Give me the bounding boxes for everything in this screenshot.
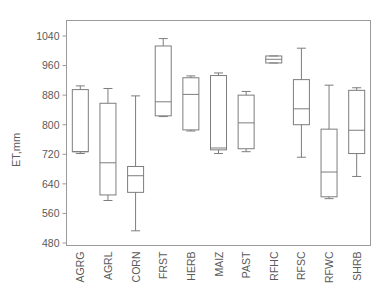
boxplot-chart: 4805606407208008809601040 ET,mm AGRGAGRL… — [0, 0, 385, 298]
box-iqr — [100, 103, 116, 195]
box-iqr — [238, 95, 254, 149]
y-tick-label: 880 — [42, 89, 60, 101]
box-group — [128, 96, 144, 231]
box-series — [72, 39, 364, 231]
box-group — [183, 76, 199, 131]
box-group — [155, 39, 171, 117]
box-iqr — [349, 90, 365, 153]
box-iqr — [293, 80, 309, 125]
box-group — [211, 73, 227, 154]
x-tick-label-agrg: AGRG — [74, 252, 86, 283]
x-tick-label-agrl: AGRL — [102, 251, 114, 280]
box-iqr — [72, 90, 88, 152]
y-tick-label: 560 — [42, 207, 60, 219]
y-axis-title: ET,mm — [10, 133, 22, 167]
x-tick-label-rfhc: RFHC — [268, 251, 280, 281]
box-group — [72, 86, 88, 154]
x-tick-label-corn: CORN — [130, 252, 142, 283]
box-group — [266, 56, 282, 63]
box-iqr — [211, 76, 227, 150]
x-tick-label-rfwc: RFWC — [323, 251, 335, 283]
x-axis-labels: AGRGAGRLCORNFRSTHERBMAIZPASTRFHCRFSCRFWC… — [74, 251, 362, 283]
x-tick-label-frst: FRST — [157, 251, 169, 279]
y-tick-label: 720 — [42, 148, 60, 160]
box-group — [293, 48, 309, 157]
y-tick-label: 640 — [42, 178, 60, 190]
x-tick-label-past: PAST — [240, 251, 252, 278]
y-tick-label: 800 — [42, 119, 60, 131]
y-tick-label: 1040 — [36, 30, 60, 42]
plot-border — [67, 21, 371, 246]
y-tick-label: 960 — [42, 59, 60, 71]
y-axis-title-text: ET,mm — [10, 133, 22, 167]
plot-frame — [67, 21, 371, 246]
x-tick-label-maiz: MAIZ — [213, 251, 225, 277]
box-iqr — [321, 129, 337, 197]
box-group — [349, 88, 365, 177]
box-iqr — [128, 166, 144, 192]
x-tick-label-shrb: SHRB — [351, 252, 363, 281]
chart-canvas: 4805606407208008809601040 ET,mm AGRGAGRL… — [0, 0, 385, 298]
box-iqr — [183, 78, 199, 130]
box-iqr — [155, 46, 171, 116]
x-tick-label-rfsc: RFSC — [295, 251, 307, 280]
box-group — [238, 91, 254, 151]
box-group — [100, 88, 116, 200]
y-axis-ticks: 4805606407208008809601040 — [36, 30, 66, 249]
box-group — [321, 85, 337, 198]
y-tick-label: 480 — [42, 237, 60, 249]
x-tick-label-herb: HERB — [185, 252, 197, 281]
